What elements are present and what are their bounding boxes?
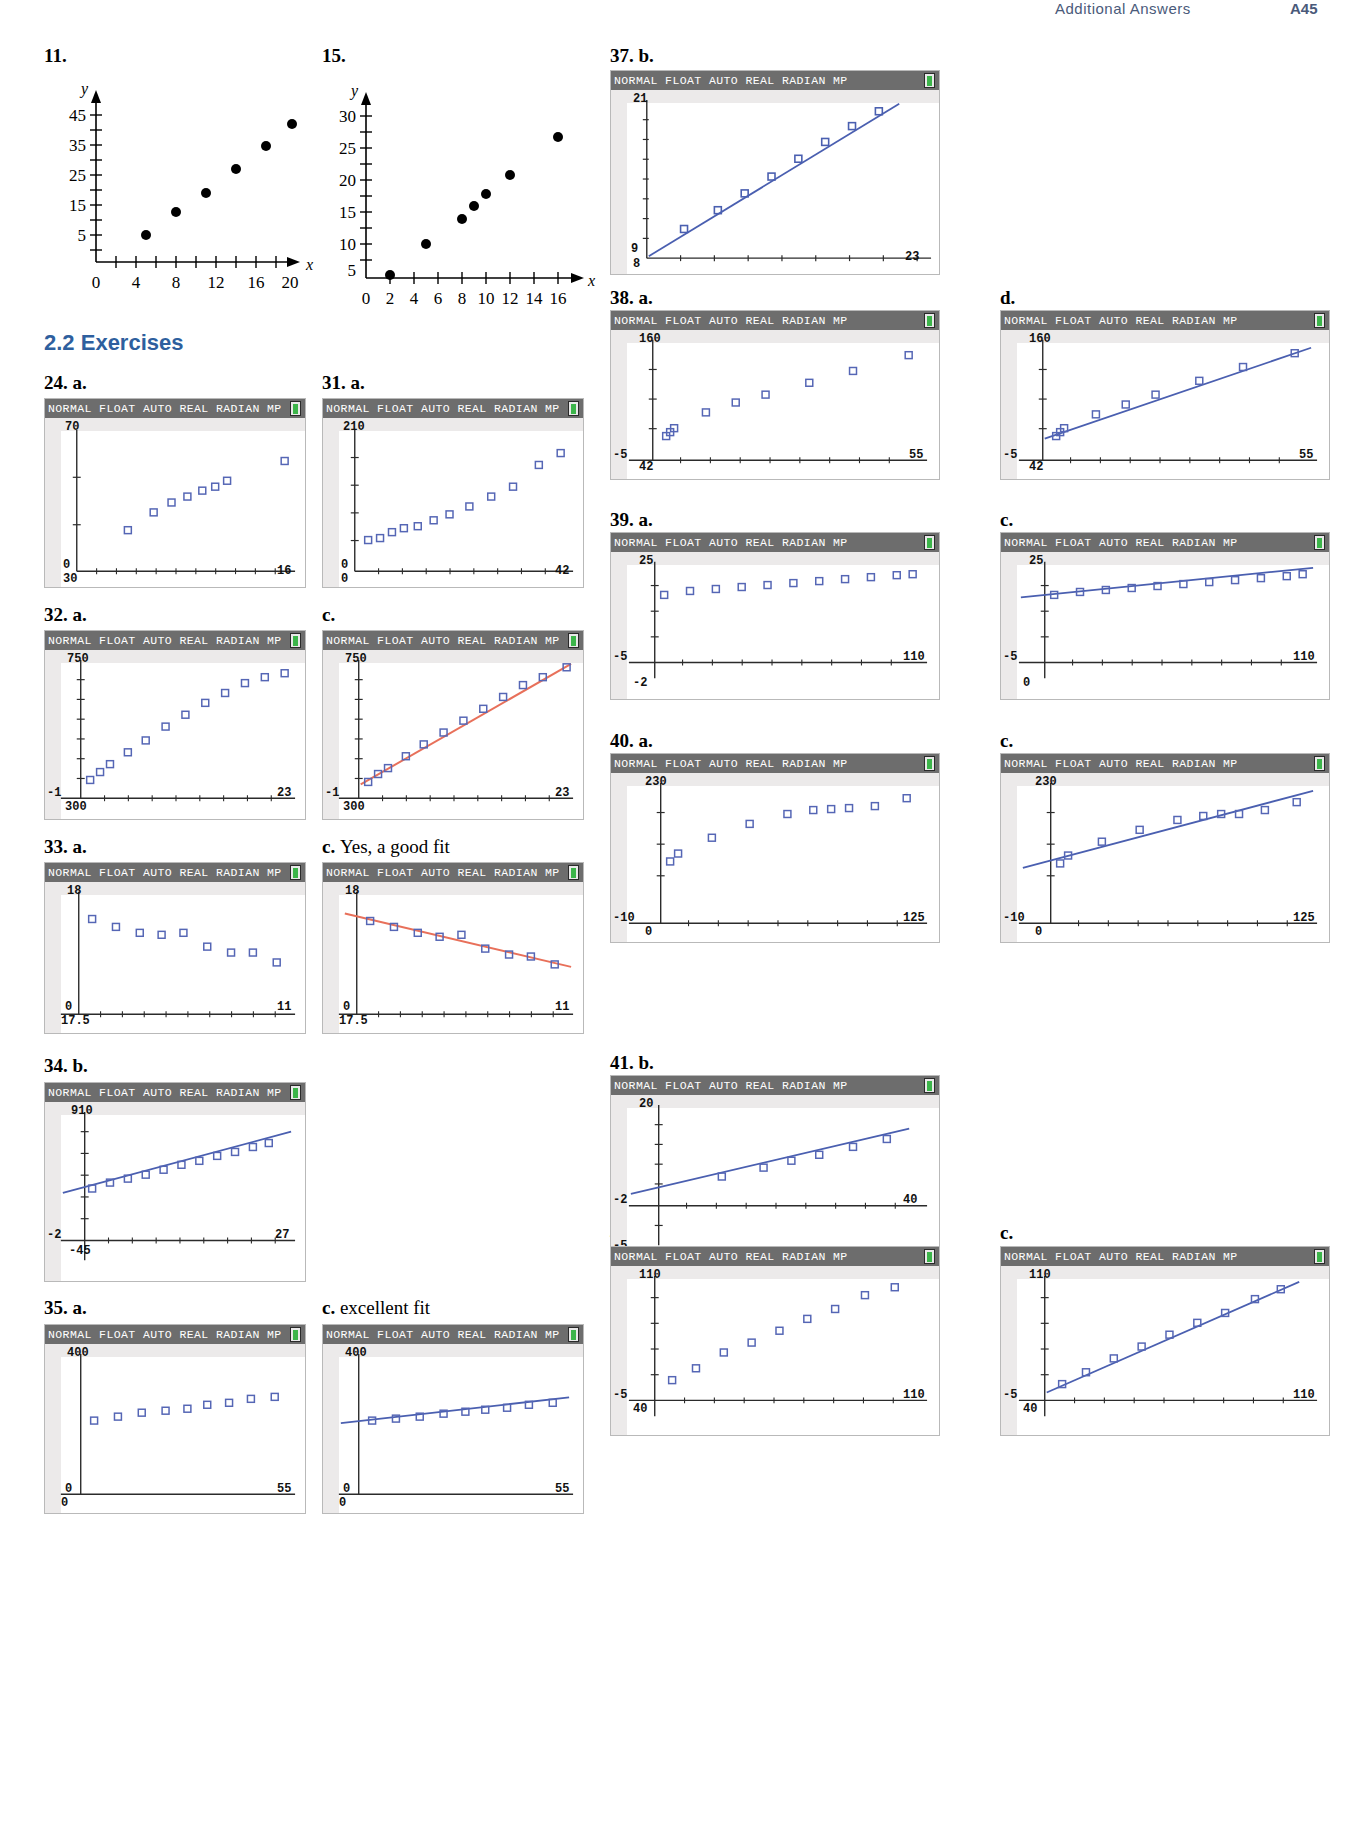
calc-label-xmax-39c: 110 <box>1293 650 1315 664</box>
calc-screen-32a[interactable]: NORMAL FLOAT AUTO REAL RADIAN MP <box>44 630 306 820</box>
calc-label-xmax-32a: 23 <box>277 786 291 800</box>
calc-label-ymax-41b: 20 <box>639 1097 653 1111</box>
battery-icon <box>290 1327 301 1342</box>
calc-status-bar: NORMAL FLOAT AUTO REAL RADIAN MP <box>45 631 305 650</box>
calc-label-ymax-40c: 230 <box>1035 775 1057 789</box>
svg-text:5: 5 <box>78 226 87 245</box>
calc-label-xmax-24a: 16 <box>277 564 291 578</box>
calc-label-xmin-33c: 17.5 <box>339 1014 368 1028</box>
calc-label-xmax-35c: 55 <box>555 1482 569 1496</box>
svg-text:4: 4 <box>410 289 419 308</box>
calc-label-xmin-34b: -2 <box>47 1228 61 1242</box>
calc-plot-area-33a: 18 0 17.5 11 <box>45 882 305 1033</box>
calc-screen-40c[interactable]: NORMAL FLOAT AUTO REAL RADIAN MP <box>1000 753 1330 943</box>
calc-label-xmin-35c: 0 <box>339 1496 346 1510</box>
calc-label-xmax-40a: 125 <box>903 911 925 925</box>
calc-screen-32c[interactable]: NORMAL FLOAT AUTO REAL RADIAN MP <box>322 630 584 820</box>
section-heading: 2.2 Exercises <box>44 330 183 356</box>
calc-screen-39a[interactable]: NORMAL FLOAT AUTO REAL RADIAN MP <box>610 532 940 700</box>
calc-screen-24a[interactable]: NORMAL FLOAT AUTO REAL RADIAN MP <box>44 398 306 588</box>
calc-screen-35a[interactable]: NORMAL FLOAT AUTO REAL RADIAN MP <box>44 1324 306 1514</box>
svg-text:x: x <box>587 272 595 289</box>
calc-label-xmax-35a: 55 <box>277 1482 291 1496</box>
calc-screen-41b[interactable]: NORMAL FLOAT AUTO REAL RADIAN MP <box>610 1075 940 1265</box>
calc-screen-37b[interactable]: NORMAL FLOAT AUTO REAL RADIAN MP <box>610 70 940 275</box>
calc-label-ymax-38a: 160 <box>639 332 661 346</box>
calc-label-ymin-38a: 42 <box>639 460 653 474</box>
calc-screen-31a[interactable]: NORMAL FLOAT AUTO REAL RADIAN MP <box>322 398 584 588</box>
calc-plot-area-42a: 110 -5 40 110 <box>611 1266 939 1435</box>
calc-screen-35c[interactable]: NORMAL FLOAT AUTO REAL RADIAN MP <box>322 1324 584 1514</box>
svg-text:8: 8 <box>458 289 467 308</box>
svg-text:10: 10 <box>478 289 495 308</box>
battery-icon <box>290 401 301 416</box>
exercise-label-35a: 35. a. <box>44 1297 87 1319</box>
calc-screen-33a[interactable]: NORMAL FLOAT AUTO REAL RADIAN MP <box>44 862 306 1034</box>
calc-label-ymin-37b: 9 <box>631 242 638 256</box>
calc-label-xmin-42c: 40 <box>1023 1402 1037 1416</box>
section-title: Exercises <box>81 330 184 355</box>
calc-label-ymin-42a: -5 <box>613 1388 627 1402</box>
calc-label-xmin-40a: -10 <box>613 911 635 925</box>
calc-label-ymax-39a: 25 <box>639 554 653 568</box>
graph-11: y x 45 35 25 15 5 0 4 8 12 16 20 <box>44 70 314 300</box>
calc-screen-38a[interactable]: NORMAL FLOAT AUTO REAL RADIAN MP <box>610 310 940 480</box>
calc-screen-42c[interactable]: NORMAL FLOAT AUTO REAL RADIAN MP <box>1000 1246 1330 1436</box>
svg-text:8: 8 <box>172 273 181 292</box>
calc-label-xmin-38a: -5 <box>613 448 627 462</box>
svg-text:12: 12 <box>502 289 519 308</box>
battery-icon <box>1314 535 1325 550</box>
exercise-label-24a: 24. a. <box>44 372 87 394</box>
calc-status-bar: NORMAL FLOAT AUTO REAL RADIAN MP <box>611 754 939 773</box>
svg-text:y: y <box>79 80 89 98</box>
calc-status-bar: NORMAL FLOAT AUTO REAL RADIAN MP <box>611 1247 939 1266</box>
calc-label-xmax-33c: 11 <box>555 1000 569 1014</box>
page-header-title: Additional Answers <box>1055 0 1191 17</box>
calc-label-ymin-33c: 0 <box>343 1000 350 1014</box>
calc-label-xmin-41b: -2 <box>613 1193 627 1207</box>
calc-plot-area-24a: 70 0 30 16 <box>45 418 305 587</box>
calc-label-xmin-39c: -5 <box>1003 650 1017 664</box>
calc-plot-area-40c: 230 -10 0 125 <box>1001 773 1329 942</box>
calc-label-ymax-33a: 18 <box>67 884 81 898</box>
calc-label-ymin-42c: -5 <box>1003 1388 1017 1402</box>
svg-text:4: 4 <box>132 273 141 292</box>
calc-label-ymin-32c: 300 <box>343 800 365 814</box>
calc-screen-34b[interactable]: NORMAL FLOAT AUTO REAL RADIAN MP <box>44 1082 306 1282</box>
calc-plot-area-42c: 110 -5 40 110 <box>1001 1266 1329 1435</box>
calc-screen-42a[interactable]: NORMAL FLOAT AUTO REAL RADIAN MP <box>610 1246 940 1436</box>
calc-screen-38d[interactable]: NORMAL FLOAT AUTO REAL RADIAN MP <box>1000 310 1330 480</box>
calc-screen-33c[interactable]: NORMAL FLOAT AUTO REAL RADIAN MP <box>322 862 584 1034</box>
battery-icon <box>290 1085 301 1100</box>
battery-icon <box>924 756 935 771</box>
battery-icon <box>1314 756 1325 771</box>
exercise-label-39c: c. <box>1000 509 1013 531</box>
calc-screen-39c[interactable]: NORMAL FLOAT AUTO REAL RADIAN MP <box>1000 532 1330 700</box>
calc-label-xmin-24a: 30 <box>63 572 77 586</box>
svg-text:0: 0 <box>362 289 371 308</box>
calc-plot-area-39c: 25 -5 0 110 <box>1001 552 1329 699</box>
battery-icon <box>1314 1249 1325 1264</box>
svg-text:2: 2 <box>386 289 395 308</box>
calc-label-xmin-38d: -5 <box>1003 448 1017 462</box>
calc-label-ymax-39c: 25 <box>1029 554 1043 568</box>
calc-status-bar: NORMAL FLOAT AUTO REAL RADIAN MP <box>323 1325 583 1344</box>
calc-status-bar: NORMAL FLOAT AUTO REAL RADIAN MP <box>45 863 305 882</box>
calc-label-xmax-31a: 42 <box>555 564 569 578</box>
calc-label-ymin-35c: 0 <box>343 1482 350 1496</box>
calc-label-xmin-40c: -10 <box>1003 911 1025 925</box>
calc-status-bar: NORMAL FLOAT AUTO REAL RADIAN MP <box>323 631 583 650</box>
exercise-label-42c: c. <box>1000 1222 1013 1244</box>
exercise-label-15: 15. <box>322 45 346 67</box>
calc-screen-40a[interactable]: NORMAL FLOAT AUTO REAL RADIAN MP <box>610 753 940 943</box>
exercise-label-11: 11. <box>44 45 67 67</box>
calc-label-ymin-31a: 0 <box>341 558 348 572</box>
calc-label-ymin-39c: 0 <box>1023 676 1030 690</box>
svg-text:30: 30 <box>339 107 356 126</box>
calc-label-ymin-35a: 0 <box>65 1482 72 1496</box>
battery-icon <box>290 865 301 880</box>
calc-label-xmin-32a: -1 <box>47 786 61 800</box>
svg-text:25: 25 <box>339 139 356 158</box>
calc-label-xmin-35a: 0 <box>61 1496 68 1510</box>
exercise-label-41b: 41. b. <box>610 1052 654 1074</box>
